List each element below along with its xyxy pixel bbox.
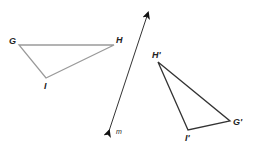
triangle-ghi-prime [158, 62, 230, 130]
label-i: I [44, 82, 47, 91]
label-h: H [116, 36, 123, 45]
triangle-ghi [19, 45, 114, 78]
label-h-prime: H' [152, 51, 161, 60]
label-g-prime: G' [233, 118, 242, 127]
label-g: G [9, 37, 16, 46]
label-m: m [116, 128, 122, 135]
line-m [109, 13, 148, 131]
label-i-prime: I' [185, 134, 190, 143]
reflection-diagram [0, 0, 254, 146]
